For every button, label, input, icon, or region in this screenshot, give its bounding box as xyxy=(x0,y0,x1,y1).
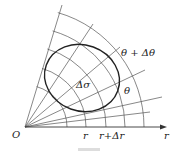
axis-r-label: r xyxy=(164,131,169,141)
theta-plus-dtheta-label: θ + Δθ xyxy=(121,48,155,58)
theta-label: θ xyxy=(124,86,130,96)
arcs xyxy=(37,13,144,127)
r-plus-dr-label: r+Δr xyxy=(99,131,124,141)
r-label: r xyxy=(83,131,88,141)
axis-arrow-icon xyxy=(160,125,167,130)
area-element-label: Δσ xyxy=(76,80,90,90)
caption-placeholder xyxy=(78,148,100,151)
origin-label: O xyxy=(12,130,20,140)
